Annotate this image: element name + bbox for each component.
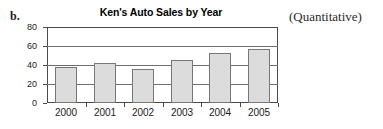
x-axis-tick (278, 103, 279, 107)
y-axis-tick-label: 40 (11, 61, 37, 70)
x-axis-tick-label: 2000 (46, 108, 86, 118)
chart-title: Ken's Auto Sales by Year (44, 6, 278, 18)
x-axis-tick (240, 103, 241, 107)
x-axis-tick-label: 2004 (200, 108, 240, 118)
y-axis-tick (43, 27, 47, 28)
bar (171, 60, 193, 103)
x-axis-tick (163, 103, 164, 107)
bar (55, 67, 77, 103)
gridline (47, 46, 278, 47)
x-axis-tick-label: 2005 (239, 108, 279, 118)
x-axis-tick-label: 2002 (123, 108, 163, 118)
x-axis-tick-label: 2003 (162, 108, 202, 118)
x-axis-tick (86, 103, 87, 107)
bar (209, 53, 231, 103)
bar (94, 63, 116, 103)
y-axis-tick-label: 60 (11, 42, 37, 51)
x-axis-tick (201, 103, 202, 107)
y-axis-tick (43, 65, 47, 66)
y-axis-tick-label: 0 (11, 99, 37, 108)
answer-annotation: (Quantitative) (289, 9, 362, 25)
y-axis-tick-label: 80 (11, 23, 37, 32)
gridline (47, 65, 278, 66)
y-axis-tick-label: 20 (11, 80, 37, 89)
y-axis-tick (43, 46, 47, 47)
y-axis-tick (43, 84, 47, 85)
bar (132, 69, 154, 103)
bar-chart-figure: Ken's Auto Sales by Year 020406080 20002… (0, 0, 290, 129)
y-axis-tick (43, 103, 47, 104)
gridline (47, 84, 278, 85)
x-axis-tick (124, 103, 125, 107)
bar (248, 49, 270, 103)
x-axis-tick-label: 2001 (85, 108, 125, 118)
